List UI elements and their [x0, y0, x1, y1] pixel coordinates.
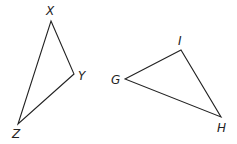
triangle-gih-outline	[125, 50, 221, 117]
vertex-label-g: G	[111, 73, 120, 87]
triangle-gih: G I H	[111, 34, 226, 135]
triangles-diagram: X Y Z G I H	[0, 0, 237, 144]
vertex-label-y: Y	[78, 69, 87, 83]
vertex-label-h: H	[217, 121, 226, 135]
vertex-label-i: I	[178, 34, 182, 48]
vertex-label-x: X	[45, 4, 55, 18]
triangle-xyz-outline	[18, 21, 74, 124]
vertex-label-z: Z	[11, 127, 21, 141]
triangle-xyz: X Y Z	[11, 4, 87, 141]
